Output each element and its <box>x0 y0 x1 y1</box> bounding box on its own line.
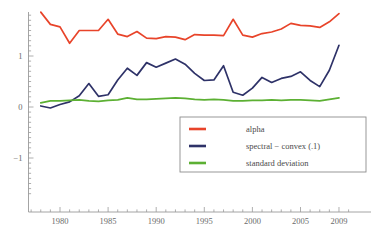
x-tick-label: 2005 <box>292 216 309 226</box>
series-line <box>41 98 339 103</box>
series-line <box>41 12 339 43</box>
series-layer <box>41 12 339 108</box>
x-tick-label: 1980 <box>52 216 69 226</box>
legend-label: alpha <box>246 124 265 134</box>
chart-figure: 10−11980198519901995200020052009 alphasp… <box>0 0 375 237</box>
y-tick-label: −1 <box>13 153 22 163</box>
legend-label: standard deviation <box>246 158 309 168</box>
line-chart: 10−11980198519901995200020052009 alphasp… <box>0 0 375 237</box>
x-tick-label: 2000 <box>244 216 261 226</box>
legend-label: spectral − convex (.1) <box>246 141 320 151</box>
x-tick-label: 1995 <box>196 216 213 226</box>
x-tick-label: 2009 <box>330 216 347 226</box>
y-tick-label: 1 <box>18 51 22 61</box>
legend-box[interactable]: alphaspectral − convex (.1)standard devi… <box>180 117 366 172</box>
y-tick-label: 0 <box>18 102 22 112</box>
x-tick-label: 1990 <box>148 216 165 226</box>
x-tick-label: 1985 <box>100 216 117 226</box>
